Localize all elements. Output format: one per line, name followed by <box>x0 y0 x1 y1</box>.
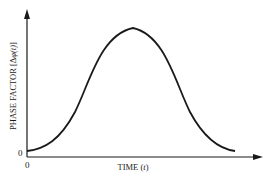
phase-curve <box>27 28 235 151</box>
y-origin-label: 0 <box>18 148 23 158</box>
x-axis-arrow-icon <box>253 154 263 160</box>
phase-factor-chart: 0 0 TIME (t) PHASE FACTOR [Δφ(t)] <box>0 0 269 181</box>
y-axis-title: PHASE FACTOR [Δφ(t)] <box>8 42 18 130</box>
x-axis-title: TIME (t) <box>118 162 149 172</box>
y-axis-arrow-icon <box>24 9 30 19</box>
x-origin-label: 0 <box>25 160 30 170</box>
